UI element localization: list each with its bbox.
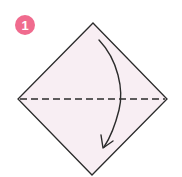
origami-diagram — [0, 0, 182, 177]
